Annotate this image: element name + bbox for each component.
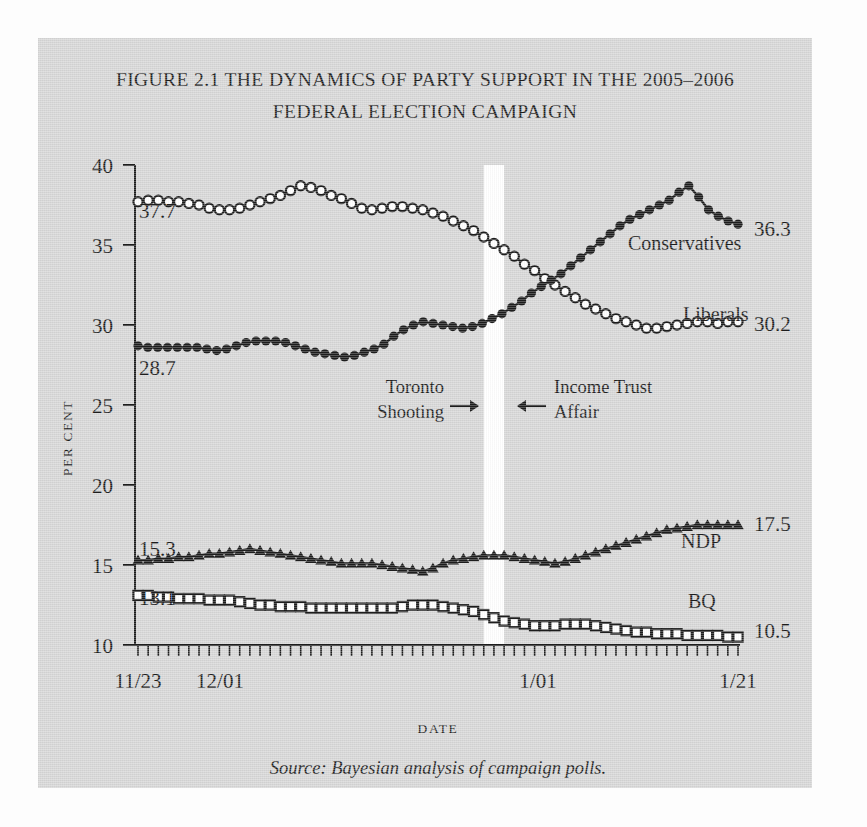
data-point-conservatives — [360, 348, 369, 357]
y-axis-tick-labels: 40 35 30 25 20 15 10 — [92, 154, 113, 658]
data-point-liberals — [367, 205, 376, 214]
data-point-bq — [418, 600, 427, 609]
series-liberals — [133, 181, 742, 333]
data-point-conservatives — [684, 181, 693, 190]
data-point-conservatives — [222, 344, 231, 353]
data-point-conservatives — [556, 269, 565, 278]
data-point-conservatives — [478, 319, 487, 328]
data-point-conservatives — [428, 319, 437, 328]
data-point-bq — [672, 629, 681, 638]
data-point-bq — [683, 631, 692, 640]
data-point-conservatives — [133, 341, 142, 350]
data-point-liberals — [215, 205, 224, 214]
data-point-conservatives — [606, 229, 615, 238]
data-point-liberals — [255, 197, 264, 206]
y-tick-label-15: 15 — [92, 554, 113, 578]
data-point-conservatives — [527, 288, 536, 297]
data-point-bq — [327, 604, 336, 613]
line-chart: 40 35 30 25 20 15 10 PER CENT 11/23 12/0… — [38, 38, 812, 788]
data-point-conservatives — [625, 215, 634, 224]
data-point-bq — [296, 602, 305, 611]
data-point-bq — [510, 618, 519, 627]
data-point-bq — [520, 620, 529, 629]
data-point-conservatives — [369, 344, 378, 353]
data-point-conservatives — [615, 221, 624, 230]
y-axis-ticks — [123, 165, 135, 645]
data-point-conservatives — [547, 276, 556, 285]
annotation-toronto-shooting-line-1: Toronto — [386, 377, 444, 397]
data-point-bq — [398, 602, 407, 611]
data-point-liberals — [276, 191, 285, 200]
series-line-ndp — [138, 525, 738, 571]
data-point-bq — [194, 594, 203, 603]
data-point-bq — [703, 631, 712, 640]
series-label-liberals: Liberals — [683, 303, 749, 325]
annotation-income-trust-affair-line-2: Affair — [554, 402, 599, 422]
data-point-bq — [266, 600, 275, 609]
data-point-liberals — [286, 186, 295, 195]
data-point-liberals — [581, 300, 590, 309]
data-point-bq — [550, 621, 559, 630]
y-tick-label-20: 20 — [92, 474, 113, 498]
data-point-bq — [377, 604, 386, 613]
series-inline-labels: Conservatives Liberals NDP BQ — [628, 232, 749, 612]
data-point-liberals — [652, 324, 661, 333]
data-point-conservatives — [330, 351, 339, 360]
data-point-bq — [215, 596, 224, 605]
data-point-conservatives — [724, 216, 733, 225]
data-point-bq — [347, 604, 356, 613]
y-tick-label-40: 40 — [92, 154, 113, 178]
data-point-conservatives — [271, 336, 280, 345]
figure-panel: FIGURE 2.1 THE DYNAMICS OF PARTY SUPPORT… — [38, 38, 812, 788]
start-label-bq: 13.1 — [139, 586, 176, 610]
data-point-bq — [367, 604, 376, 613]
data-point-liberals — [520, 260, 529, 269]
data-point-liberals — [449, 216, 458, 225]
data-point-bq — [357, 604, 366, 613]
data-point-liberals — [205, 204, 214, 213]
data-point-conservatives — [192, 343, 201, 352]
data-point-conservatives — [183, 343, 192, 352]
series-label-bq: BQ — [688, 590, 716, 612]
series-label-conservatives: Conservatives — [628, 232, 742, 254]
data-point-bq — [662, 629, 671, 638]
data-point-liberals — [357, 204, 366, 213]
annotation-income-trust-affair: Income Trust Affair — [554, 377, 653, 422]
data-point-bq — [184, 594, 193, 603]
data-point-conservatives — [714, 212, 723, 221]
data-point-bq — [479, 610, 488, 619]
data-point-liberals — [510, 252, 519, 261]
data-point-conservatives — [517, 296, 526, 305]
data-point-bq — [306, 604, 315, 613]
data-point-conservatives — [143, 343, 152, 352]
end-label-bq: 10.5 — [754, 619, 791, 643]
data-point-conservatives — [487, 314, 496, 323]
x-axis-tick-labels: 11/23 12/01 1/01 1/21 — [114, 669, 756, 693]
data-point-conservatives — [340, 352, 349, 361]
data-point-bq — [611, 624, 620, 633]
data-point-liberals — [408, 204, 417, 213]
data-point-conservatives — [704, 205, 713, 214]
end-label-conservatives: 36.3 — [754, 217, 791, 241]
data-point-liberals — [571, 293, 580, 302]
data-point-conservatives — [596, 237, 605, 246]
y-axis-title: PER CENT — [60, 400, 75, 476]
annotation-toronto-shooting: Toronto Shooting — [377, 377, 444, 422]
data-point-liberals — [225, 205, 234, 214]
data-point-liberals — [591, 304, 600, 313]
data-point-liberals — [266, 194, 275, 203]
annotation-income-trust-affair-line-1: Income Trust — [554, 377, 653, 397]
data-point-conservatives — [291, 341, 300, 350]
data-point-conservatives — [153, 343, 162, 352]
data-point-bq — [316, 604, 325, 613]
data-point-bq — [489, 613, 498, 622]
data-point-liberals — [662, 322, 671, 331]
data-point-bq — [733, 632, 742, 641]
data-point-liberals — [500, 245, 509, 254]
data-point-bq — [652, 629, 661, 638]
data-point-conservatives — [694, 192, 703, 201]
data-point-bq — [235, 597, 244, 606]
figure-page: FIGURE 2.1 THE DYNAMICS OF PARTY SUPPORT… — [0, 0, 867, 827]
data-point-conservatives — [320, 349, 329, 358]
data-point-bq — [225, 596, 234, 605]
